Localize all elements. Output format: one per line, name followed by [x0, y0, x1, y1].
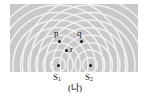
source-label-s2-subscript: 2 — [90, 76, 93, 82]
figure-caption: (나) — [0, 84, 150, 93]
point-label-q: q — [77, 29, 82, 38]
figure-container: p q r S1 S2 (나) — [0, 0, 150, 102]
source-dot-s1 — [57, 64, 60, 67]
point-dot-q — [80, 40, 83, 43]
point-dot-r — [65, 49, 68, 52]
point-label-r: r — [70, 45, 73, 54]
point-label-p: p — [54, 29, 59, 38]
source-label-s1: S1 — [53, 73, 61, 82]
wave-interference-panel: p q r — [10, 4, 138, 72]
source-label-s2: S2 — [85, 73, 93, 82]
point-dot-p — [58, 40, 61, 43]
source-label-s1-subscript: 1 — [58, 76, 61, 82]
wavefront-arcs — [10, 4, 138, 72]
source-dot-s2 — [89, 64, 92, 67]
